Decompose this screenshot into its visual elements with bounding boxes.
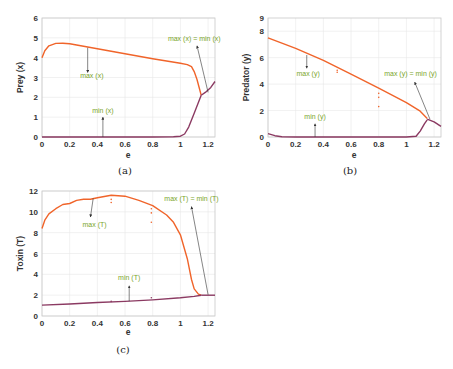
y-tick-label: 0 [34, 133, 39, 142]
x-tick-label: 0.4 [318, 140, 330, 149]
caption-c: (c) [103, 344, 143, 355]
chart-panel-predator: 00.20.40.60.811.2024689ePredator (y)max … [226, 0, 453, 180]
predator-chart: 00.20.40.60.811.2024689ePredator (y)max … [226, 0, 453, 180]
y-tick-label: 6 [34, 250, 39, 259]
chart-panel-prey: 00.20.40.60.811.20123456ePrey (x)max (x)… [0, 0, 226, 180]
x-axis-label: e [352, 150, 357, 160]
annotation-label: max (y) [296, 70, 319, 78]
caption-b: (b) [330, 165, 370, 176]
y-tick-label: 0 [34, 312, 39, 321]
y-tick-label: 3 [34, 74, 39, 83]
y-axis-label: Predator (y) [241, 53, 251, 101]
y-tick-label: 2 [260, 107, 265, 116]
y-tick-label: 8 [260, 27, 265, 36]
y-tick-label: 8 [34, 229, 39, 238]
x-axis-label: e [126, 150, 131, 160]
data-point [336, 69, 338, 71]
y-tick-label: 2 [34, 291, 39, 300]
data-point [336, 71, 338, 73]
annotation-label: min (y) [304, 113, 325, 121]
y-tick-label: 9 [260, 14, 265, 23]
y-tick-label: 10 [29, 208, 38, 217]
chart-panel-toxin: 00.20.40.60.811.2024681012eToxin (T)max … [0, 180, 226, 369]
toxin-chart: 00.20.40.60.811.2024681012eToxin (T)max … [0, 180, 226, 369]
data-point [151, 208, 153, 210]
data-point [378, 106, 380, 108]
annotation-label: max (x) = min (x) [168, 35, 221, 43]
x-tick-label: 1.2 [203, 319, 215, 328]
x-tick-label: 0 [40, 319, 45, 328]
x-tick-label: 0.8 [373, 140, 385, 149]
data-point [378, 93, 380, 95]
x-tick-label: 1.2 [429, 140, 441, 149]
y-tick-label: 5 [34, 34, 39, 43]
x-tick-label: 1 [404, 140, 409, 149]
data-point [110, 202, 112, 204]
y-tick-label: 4 [34, 270, 39, 279]
caption-a: (a) [105, 165, 145, 176]
data-point [110, 199, 112, 201]
y-tick-label: 1 [34, 113, 39, 122]
y-tick-label: 6 [34, 14, 39, 23]
prey-chart: 00.20.40.60.811.20123456ePrey (x)max (x)… [0, 0, 226, 180]
x-tick-label: 0.4 [92, 140, 104, 149]
x-tick-label: 1 [178, 319, 183, 328]
y-axis-label: Toxin (T) [15, 236, 25, 271]
x-axis-label: e [126, 327, 131, 337]
data-point [378, 97, 380, 99]
y-tick-label: 0 [260, 133, 265, 142]
data-point [151, 221, 153, 223]
x-tick-label: 0 [266, 140, 271, 149]
x-tick-label: 0.6 [345, 140, 357, 149]
data-point [110, 301, 112, 303]
x-tick-label: 0.6 [119, 140, 131, 149]
x-tick-label: 0.4 [92, 319, 104, 328]
annotation-label: min (T) [118, 274, 140, 282]
y-tick-label: 4 [34, 54, 39, 63]
x-tick-label: 0 [40, 140, 45, 149]
annotation-label: max (T) = min (T) [164, 195, 218, 203]
plot-area [268, 18, 441, 137]
x-tick-label: 1 [178, 140, 183, 149]
annotation-label: max (y) = min (y) [384, 70, 437, 78]
annotation-label: min (x) [92, 107, 113, 115]
x-tick-label: 1.2 [203, 140, 215, 149]
annotation-label: max (T) [83, 221, 107, 229]
y-tick-label: 2 [34, 93, 39, 102]
x-tick-label: 0.8 [147, 319, 159, 328]
x-tick-label: 0.2 [290, 140, 302, 149]
x-tick-label: 0.2 [64, 140, 76, 149]
y-axis-label: Prey (x) [15, 62, 25, 93]
data-point [151, 297, 153, 299]
x-tick-label: 0.8 [147, 140, 159, 149]
y-tick-label: 6 [260, 54, 265, 63]
annotation-label: max (x) [80, 72, 103, 80]
y-tick-label: 4 [260, 80, 265, 89]
y-tick-label: 12 [29, 187, 38, 196]
x-tick-label: 0.2 [64, 319, 76, 328]
data-point [151, 212, 153, 214]
